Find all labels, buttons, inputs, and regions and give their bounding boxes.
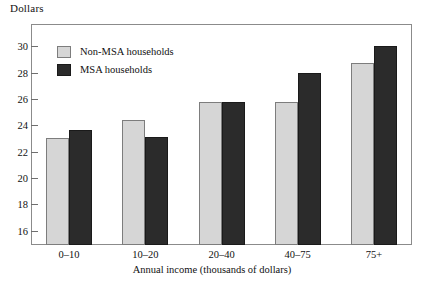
legend-label-non-msa: Non-MSA households bbox=[80, 46, 174, 57]
y-tick-label: 24 bbox=[18, 120, 29, 131]
x-axis-title: Annual income (thousands of dollars) bbox=[0, 264, 424, 275]
x-tick-label: 75+ bbox=[366, 249, 382, 260]
bar bbox=[199, 102, 222, 245]
y-tick-label: 18 bbox=[18, 199, 29, 210]
x-tick-label: 0–10 bbox=[59, 249, 80, 260]
legend-item: MSA households bbox=[57, 62, 174, 77]
bar bbox=[222, 102, 245, 245]
x-tick-label: 10–20 bbox=[132, 249, 158, 260]
bar bbox=[122, 120, 145, 245]
bar-chart: Dollars 1618202224262830 0–1010–2020–404… bbox=[0, 0, 424, 285]
bar bbox=[69, 130, 92, 245]
y-tick-label: 30 bbox=[18, 41, 29, 52]
y-tick-label: 20 bbox=[18, 172, 29, 183]
y-tick-label: 22 bbox=[18, 146, 29, 157]
legend-label-msa: MSA households bbox=[80, 64, 152, 75]
legend-swatch-msa-icon bbox=[57, 64, 71, 76]
x-tick-label: 40–75 bbox=[285, 249, 311, 260]
bar bbox=[275, 102, 298, 245]
legend: Non-MSA households MSA households bbox=[57, 44, 174, 80]
y-tick-label: 26 bbox=[18, 93, 29, 104]
legend-item: Non-MSA households bbox=[57, 44, 174, 59]
bar bbox=[46, 138, 69, 245]
bar bbox=[145, 137, 168, 245]
y-tick-label: 16 bbox=[18, 225, 29, 236]
y-tick-label: 28 bbox=[18, 67, 29, 78]
y-axis-title: Dollars bbox=[10, 2, 44, 14]
x-tick-label: 20–40 bbox=[208, 249, 234, 260]
legend-swatch-non-msa-icon bbox=[57, 46, 71, 58]
bar bbox=[351, 63, 374, 245]
bar bbox=[298, 73, 321, 245]
bar bbox=[374, 46, 397, 245]
